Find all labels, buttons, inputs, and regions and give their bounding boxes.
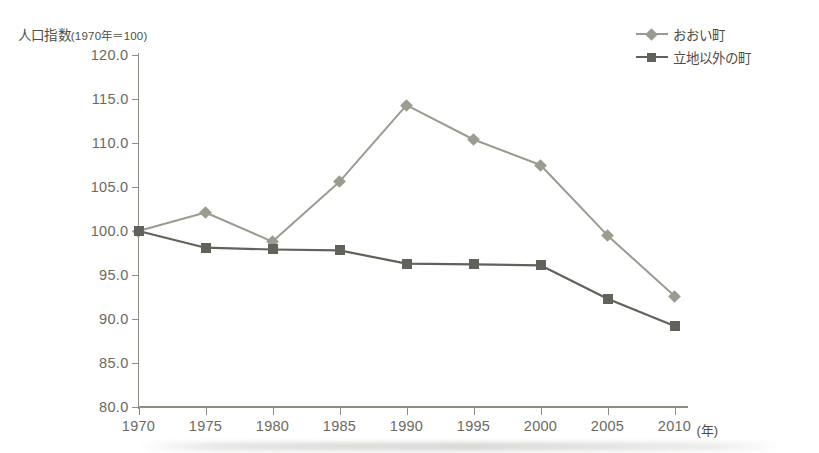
x-axis-tick	[407, 408, 408, 415]
y-axis-tick-label: 85.0	[57, 355, 129, 371]
data-point-marker	[199, 206, 212, 219]
data-point-marker	[201, 243, 211, 253]
y-axis-tick	[132, 275, 139, 276]
y-axis-tick	[132, 319, 139, 320]
population-index-line-chart: 人口指数(1970年＝100) おおい町 立地以外の町 120.0115.011…	[0, 0, 819, 453]
data-point-marker	[534, 159, 547, 172]
data-point-marker	[603, 294, 613, 304]
data-point-marker	[467, 133, 480, 146]
x-axis-tick	[273, 408, 274, 415]
series-line-2	[139, 231, 675, 326]
y-axis-tick	[132, 363, 139, 364]
data-point-marker	[469, 259, 479, 269]
data-point-marker	[400, 99, 413, 112]
y-axis-tick-label: 100.0	[57, 223, 129, 239]
data-point-marker	[134, 226, 144, 236]
data-point-marker	[536, 260, 546, 270]
data-point-marker	[668, 290, 681, 303]
x-axis-tick	[340, 408, 341, 415]
y-axis-tick	[132, 55, 139, 56]
y-axis-tick-label: 110.0	[57, 135, 129, 151]
y-axis-tick-label: 95.0	[57, 267, 129, 283]
x-axis-tick-label: 1985	[323, 418, 356, 434]
x-axis-tick-label: 2010	[658, 418, 691, 434]
x-axis-tick	[541, 408, 542, 415]
data-point-marker	[335, 245, 345, 255]
y-axis-tick	[132, 99, 139, 100]
x-axis-tick	[608, 408, 609, 415]
y-axis-tick-label: 80.0	[57, 399, 129, 415]
x-axis-tick-label: 2000	[524, 418, 557, 434]
y-axis-tick-label: 105.0	[57, 179, 129, 195]
x-axis-tick	[206, 408, 207, 415]
x-axis-tick	[474, 408, 475, 415]
x-axis-unit-label: (年)	[697, 420, 719, 439]
y-axis-tick-label: 90.0	[57, 311, 129, 327]
y-axis-tick-label: 115.0	[57, 91, 129, 107]
x-axis-line	[138, 406, 688, 407]
x-axis-tick-label: 1990	[390, 418, 423, 434]
x-axis-tick-label: 1975	[189, 418, 222, 434]
x-axis-tick	[675, 408, 676, 415]
data-point-marker	[268, 244, 278, 254]
data-point-marker	[670, 321, 680, 331]
x-axis-tick	[139, 408, 140, 415]
y-axis-tick-label: 120.0	[57, 47, 129, 63]
data-point-marker	[601, 229, 614, 242]
y-axis-tick	[132, 143, 139, 144]
x-axis-tick-label: 2005	[591, 418, 624, 434]
scan-artifact	[140, 442, 780, 451]
y-axis-tick	[132, 187, 139, 188]
plot-area: 120.0115.0110.0105.0100.095.090.085.080.…	[0, 0, 819, 453]
data-point-marker	[333, 175, 346, 188]
x-axis-tick-label: 1995	[457, 418, 490, 434]
y-axis-tick	[132, 407, 139, 408]
x-axis-tick-label: 1970	[122, 418, 155, 434]
data-point-marker	[402, 259, 412, 269]
x-axis-tick-label: 1980	[256, 418, 289, 434]
